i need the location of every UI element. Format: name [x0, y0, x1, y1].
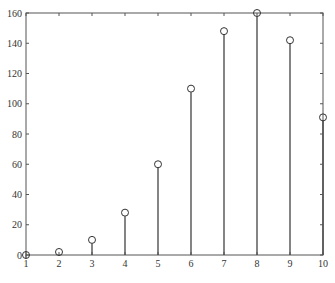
- stem-chart: 12345678910 020406080100120140160: [0, 0, 335, 283]
- x-tick-label: 9: [288, 258, 293, 269]
- x-tick-label: 10: [318, 258, 328, 269]
- y-tick-label: 20: [12, 219, 22, 230]
- y-tick-label: 0: [17, 250, 22, 261]
- stem-marker: [155, 161, 162, 168]
- stem-marker: [122, 209, 129, 216]
- y-tick-label: 160: [7, 8, 22, 19]
- x-tick-label: 6: [189, 258, 194, 269]
- y-tick-label: 80: [12, 129, 22, 140]
- plot-area: [26, 13, 323, 255]
- x-tick-label: 4: [123, 258, 128, 269]
- x-tick-label: 7: [222, 258, 227, 269]
- stem-series: [23, 10, 327, 259]
- x-axis-ticks: 12345678910: [24, 13, 329, 269]
- x-tick-label: 1: [24, 258, 29, 269]
- y-tick-label: 40: [12, 189, 22, 200]
- stem-marker: [89, 236, 96, 243]
- x-tick-label: 3: [90, 258, 95, 269]
- x-tick-label: 5: [156, 258, 161, 269]
- x-tick-label: 2: [57, 258, 62, 269]
- y-tick-label: 120: [7, 68, 22, 79]
- y-tick-label: 140: [7, 38, 22, 49]
- y-tick-label: 60: [12, 159, 22, 170]
- y-tick-label: 100: [7, 98, 22, 109]
- stem-marker: [188, 85, 195, 92]
- stem-marker: [287, 37, 294, 44]
- x-tick-label: 8: [255, 258, 260, 269]
- axes-box: [26, 13, 323, 255]
- y-axis-ticks: 020406080100120140160: [7, 8, 323, 261]
- stem-marker: [221, 28, 228, 35]
